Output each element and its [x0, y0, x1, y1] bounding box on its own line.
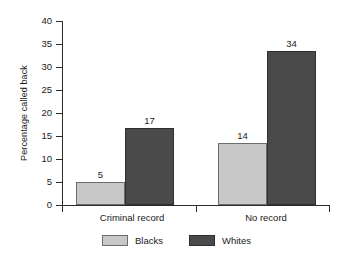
legend-item-blacks: Blacks — [102, 235, 163, 246]
x-category-label-no-record: No record — [203, 212, 329, 223]
y-axis-tick-label-20: 20 — [18, 107, 52, 118]
legend-item-whites: Whites — [189, 235, 251, 246]
bar-value-label-no-record-blacks: 14 — [218, 130, 267, 141]
y-axis-tick-10 — [56, 159, 63, 160]
legend: Blacks Whites — [0, 235, 353, 246]
bar-no-record-blacks — [218, 143, 267, 205]
y-axis-tick-40 — [56, 21, 63, 22]
y-axis-tick-15 — [56, 136, 63, 137]
x-category-label-criminal-record: Criminal record — [69, 212, 195, 223]
bar-criminal-record-blacks — [76, 182, 125, 205]
y-axis-tick-35 — [56, 44, 63, 45]
legend-label-blacks: Blacks — [135, 235, 163, 246]
y-axis-tick-20 — [56, 113, 63, 114]
bar-chart: Percentage called back 0510152025303540 … — [0, 0, 353, 265]
y-axis-tick-5 — [56, 182, 63, 183]
y-axis-tick-label-30: 30 — [18, 61, 52, 72]
bar-value-label-no-record-whites: 34 — [267, 38, 316, 49]
x-axis-tick-end — [329, 206, 330, 212]
x-axis-tick-middle — [196, 206, 197, 212]
bar-value-label-criminal-record-whites: 17 — [125, 115, 174, 126]
legend-swatch-whites — [189, 235, 215, 246]
legend-swatch-blacks — [102, 235, 128, 246]
y-axis-tick-25 — [56, 90, 63, 91]
y-axis-tick-label-40: 40 — [18, 15, 52, 26]
y-axis-tick-label-10: 10 — [18, 153, 52, 164]
x-axis-tick-start — [62, 206, 63, 212]
bar-criminal-record-whites — [125, 128, 174, 205]
legend-label-whites: Whites — [222, 235, 251, 246]
y-axis-tick-label-5: 5 — [18, 176, 52, 187]
y-axis-tick-label-0: 0 — [18, 199, 52, 210]
bar-no-record-whites — [267, 51, 316, 205]
y-axis-tick-label-25: 25 — [18, 84, 52, 95]
y-axis-tick-30 — [56, 67, 63, 68]
bar-value-label-criminal-record-blacks: 5 — [76, 169, 125, 180]
y-axis-tick-label-35: 35 — [18, 38, 52, 49]
y-axis-tick-label-15: 15 — [18, 130, 52, 141]
